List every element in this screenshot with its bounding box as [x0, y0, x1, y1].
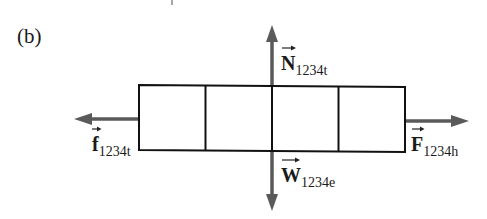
applied-force-symbol: F [411, 133, 423, 155]
weight-label: W1234e [281, 165, 335, 185]
friction-subscript: 1234t [99, 144, 131, 159]
vector-arrow-icon [92, 125, 102, 133]
friction-arrow [74, 113, 139, 125]
applied-force-subscript: 1234h [423, 144, 458, 159]
normal-force-arrow [266, 25, 278, 86]
friction-label: f1234t [92, 134, 131, 154]
vector-arrow-icon [411, 125, 425, 133]
block [139, 85, 405, 152]
free-body-diagram [0, 0, 487, 219]
panel-label: (b) [17, 26, 42, 47]
weight-subscript: 1234e [301, 175, 335, 190]
vector-arrow-icon [281, 156, 301, 164]
weight-arrow [266, 150, 278, 211]
friction-symbol: f [92, 133, 99, 155]
applied-force-label: F1234h [411, 134, 458, 154]
normal-force-label: N1234t [281, 53, 327, 73]
normal-force-symbol: N [281, 52, 295, 74]
weight-symbol: W [281, 164, 301, 186]
vector-arrow-icon [281, 44, 297, 52]
normal-force-subscript: 1234t [295, 63, 327, 78]
